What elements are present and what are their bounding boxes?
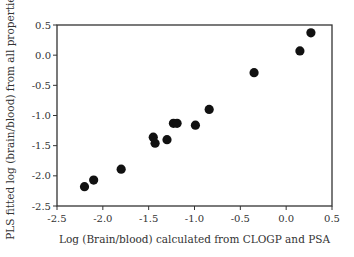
plot-border (57, 25, 332, 206)
y-tick-label: -2.0 (32, 170, 51, 181)
data-point (150, 139, 159, 148)
data-point (80, 182, 89, 191)
x-tick-label: -1.0 (185, 213, 204, 224)
y-tick-label: -0.5 (32, 80, 51, 91)
x-tick-label: -0.5 (231, 213, 250, 224)
y-axis-label: PLS fitted log (brain/blood) from all pr… (4, 0, 16, 240)
y-tick-label: 0.0 (35, 50, 51, 61)
x-tick-label: 0.5 (324, 213, 340, 224)
data-point (89, 175, 98, 184)
x-axis-ticks: -2.5-2.0-1.5-1.0-0.50.00.5 (47, 206, 340, 224)
y-tick-label: -1.0 (32, 110, 51, 121)
data-point (306, 28, 315, 37)
y-tick-label: -2.5 (32, 201, 51, 212)
x-tick-label: -2.0 (93, 213, 112, 224)
y-axis-ticks: 0.50.0-0.5-1.0-1.5-2.0-2.5 (32, 20, 57, 212)
y-tick-label: 0.5 (35, 20, 51, 31)
data-points (80, 28, 316, 191)
data-point (172, 119, 181, 128)
data-point (191, 121, 200, 130)
scatter-chart: -2.5-2.0-1.5-1.0-0.50.00.5 0.50.0-0.5-1.… (0, 0, 354, 257)
data-point (295, 46, 304, 55)
x-tick-label: -2.5 (47, 213, 66, 224)
data-point (205, 105, 214, 114)
x-tick-label: 0.0 (278, 213, 294, 224)
y-tick-label: -1.5 (32, 140, 51, 151)
data-point (162, 135, 171, 144)
data-point (249, 68, 258, 77)
data-point (117, 165, 126, 174)
plot-frame (57, 25, 332, 206)
x-axis-label: Log (Brain/blood) calculated from CLOGP … (59, 233, 330, 245)
x-tick-label: -1.5 (139, 213, 158, 224)
